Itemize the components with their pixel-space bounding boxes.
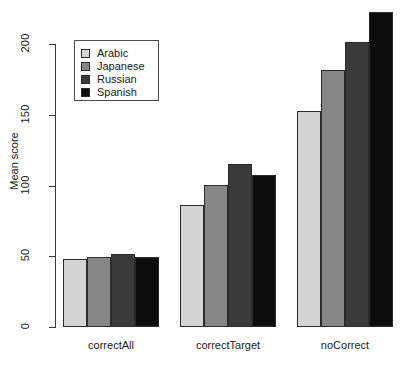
legend-item-Japanese: Japanese xyxy=(81,59,145,73)
legend: ArabicJapaneseRussianSpanish xyxy=(74,40,159,101)
bar-correctAll-Japanese xyxy=(87,257,111,327)
legend-item-Spanish: Spanish xyxy=(81,85,137,99)
bar-chart: 050100150200 Mean score correctAllcorrec… xyxy=(0,0,402,369)
bar-correctAll-Arabic xyxy=(63,259,87,327)
legend-item-Arabic: Arabic xyxy=(81,46,128,60)
legend-label: Japanese xyxy=(97,61,145,72)
legend-label: Spanish xyxy=(97,87,137,98)
bar-noCorrect-Arabic xyxy=(297,111,321,327)
legend-item-Russian: Russian xyxy=(81,72,137,86)
bar-noCorrect-Russian xyxy=(345,42,369,327)
plot-area xyxy=(0,0,402,369)
bar-correctTarget-Japanese xyxy=(204,185,228,327)
bar-correctTarget-Russian xyxy=(228,164,252,327)
bar-correctTarget-Spanish xyxy=(252,175,276,327)
legend-swatch-icon xyxy=(81,88,90,97)
bar-correctTarget-Arabic xyxy=(180,205,204,327)
legend-swatch-icon xyxy=(81,75,90,84)
x-axis-label-noCorrect: noCorrect xyxy=(297,339,393,351)
bar-noCorrect-Spanish xyxy=(369,12,393,327)
bar-noCorrect-Japanese xyxy=(321,70,345,327)
legend-label: Russian xyxy=(97,74,137,85)
x-axis-label-correctTarget: correctTarget xyxy=(180,339,276,351)
bar-correctAll-Russian xyxy=(111,254,135,327)
bar-correctAll-Spanish xyxy=(135,257,159,327)
x-axis-label-correctAll: correctAll xyxy=(63,339,159,351)
legend-swatch-icon xyxy=(81,62,90,71)
legend-swatch-icon xyxy=(81,49,90,58)
legend-label: Arabic xyxy=(97,48,128,59)
